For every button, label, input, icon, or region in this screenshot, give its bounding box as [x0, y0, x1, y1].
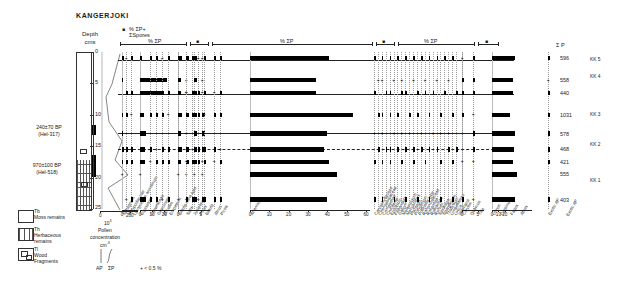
axis-tick-label: 0	[491, 212, 494, 217]
pollen-bar	[397, 113, 399, 117]
pollen-bar	[405, 91, 407, 95]
pollen-bar	[429, 147, 431, 151]
pollen-bar	[204, 56, 206, 60]
trace-marker: +	[461, 159, 464, 164]
trace-marker: +	[377, 78, 380, 83]
sum-value: 468	[560, 146, 569, 152]
trace-marker: +	[139, 172, 142, 177]
pollen-bar	[198, 160, 200, 164]
trace-marker: +	[177, 197, 180, 202]
pollen-bar	[220, 91, 222, 95]
column-guide	[444, 52, 445, 209]
column-guide	[417, 52, 418, 209]
sum-value: 421	[560, 159, 569, 165]
pollen-bar	[131, 160, 133, 164]
depth-tick-0: 0	[95, 48, 98, 54]
pollen-bar	[548, 56, 550, 60]
sum-value: 596	[560, 55, 569, 61]
axis-tick-label: 30	[305, 212, 310, 217]
legend-label-wood-2: Fragments	[34, 259, 58, 265]
pollen-bar	[462, 197, 464, 201]
trace-marker: +	[381, 78, 384, 83]
pollen-bar	[122, 131, 123, 135]
sum-value: 403	[560, 197, 569, 203]
pollen-bar	[433, 91, 435, 95]
axis-tick-label: 0	[249, 212, 252, 217]
pollen-bar	[492, 172, 517, 176]
legend-swatch-herb	[18, 228, 34, 241]
pollen-bar	[156, 91, 158, 95]
pollen-bar	[452, 197, 454, 201]
pollen-bar	[394, 197, 396, 201]
pollen-bar	[186, 113, 188, 117]
trace-marker: +	[400, 131, 403, 136]
pollen-bar	[220, 113, 222, 117]
pollen-bar	[214, 147, 216, 151]
pollen-bar	[194, 160, 197, 164]
column-guide	[378, 52, 379, 209]
trace-marker: +	[547, 78, 550, 83]
pollen-bar	[192, 197, 194, 201]
spores-marker-icon: ■	[122, 26, 125, 32]
pollen-bar	[122, 78, 123, 82]
column-guide	[413, 52, 414, 209]
pollen-bar	[194, 147, 197, 151]
pollen-bar	[452, 113, 454, 117]
pollen-bar	[429, 197, 431, 201]
pollen-bar	[250, 131, 327, 135]
conc-tick-0: 0	[99, 213, 102, 218]
header-rule-6-marker-icon: ■	[485, 38, 488, 44]
legend-label-herb-2: remains	[34, 239, 52, 245]
pollen-bar	[250, 147, 324, 151]
pollen-bar	[186, 56, 188, 60]
pollen-bar	[192, 91, 194, 95]
pollen-bar	[462, 113, 464, 117]
pollen-bar	[386, 147, 388, 151]
pollen-bar	[440, 113, 442, 117]
trace-marker: +	[125, 197, 128, 202]
pollen-bar	[456, 147, 458, 151]
ap-sp-symbol	[98, 248, 124, 266]
pollen-bar	[405, 197, 407, 201]
legend-swatch-wood	[18, 248, 34, 261]
pollen-bar	[204, 197, 206, 201]
trace-marker: +	[461, 147, 464, 152]
pollen-bar	[452, 160, 454, 164]
pollen-bar	[382, 160, 384, 164]
pollen-bar	[429, 113, 431, 117]
column-guide	[204, 52, 205, 209]
pollen-bar	[186, 147, 188, 151]
pollen-bar	[548, 147, 550, 151]
pollen-bar	[417, 197, 419, 201]
trace-marker: +	[130, 112, 133, 117]
trace-marker: +	[412, 78, 415, 83]
axis-tick-label: 0	[139, 212, 142, 217]
pollen-bar	[473, 131, 475, 135]
pollen-bar	[178, 160, 181, 164]
pollen-bar	[425, 91, 427, 95]
pollen-bar	[413, 147, 415, 151]
trace-marker: +	[193, 172, 196, 177]
pollen-bar	[390, 147, 392, 151]
trace-marker: +	[392, 131, 395, 136]
zone-label: KK 1	[590, 178, 600, 183]
pollen-bar	[220, 56, 222, 60]
axis-tick-label: 0	[121, 212, 124, 217]
pollen-bar	[378, 147, 380, 151]
axis-tick-label: 5	[200, 212, 203, 217]
pollen-bar	[473, 78, 475, 82]
zone-label: KK 3	[590, 112, 600, 117]
pollen-bar	[456, 91, 458, 95]
axis-tick-label: 0	[177, 212, 180, 217]
trace-marker: +	[191, 147, 194, 152]
pollen-bar	[374, 91, 376, 95]
pollen-bar	[444, 91, 446, 95]
axis-tick-label: 10	[267, 212, 272, 217]
column-guide	[425, 52, 426, 209]
trace-marker: +	[213, 159, 216, 164]
conc-title-2: concentration	[90, 234, 120, 240]
pollen-bar	[192, 56, 194, 60]
trace-marker: +	[400, 78, 403, 83]
pollen-bar	[429, 56, 431, 60]
pollen-bar	[140, 160, 145, 164]
